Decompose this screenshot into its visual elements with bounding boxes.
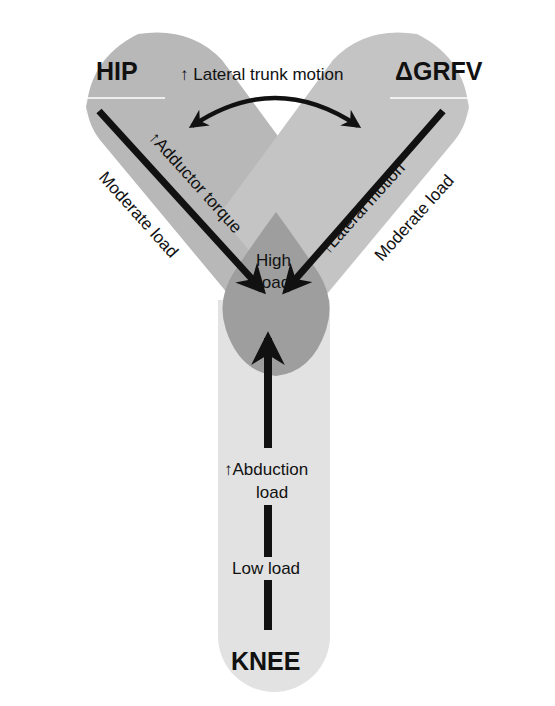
trunk-motion-label: ↑ Lateral trunk motion	[180, 65, 343, 84]
knee-mechanism-line1: ↑Abduction	[224, 460, 308, 479]
knee-title: KNEE	[231, 647, 300, 675]
knee-mechanism-line2: load	[256, 483, 288, 502]
knee-load-label: Low load	[232, 559, 300, 578]
diagram-canvas: HIP ΔGRFV KNEE ↑ Lateral trunk motion ↑A…	[0, 0, 555, 706]
knee-arrow-segment	[264, 505, 272, 557]
knee-arrow-segment	[264, 580, 272, 630]
y-diagram: HIP ΔGRFV KNEE ↑ Lateral trunk motion ↑A…	[0, 0, 555, 706]
grfv-title: ΔGRFV	[395, 57, 483, 85]
high-load-line1: High	[256, 251, 291, 270]
hip-title: HIP	[96, 57, 138, 85]
high-load-line2: load	[258, 273, 290, 292]
